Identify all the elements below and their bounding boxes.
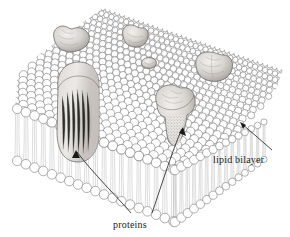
proteins-label: proteins bbox=[113, 219, 147, 230]
protein-top-left bbox=[54, 26, 90, 52]
protein-right bbox=[196, 52, 233, 82]
protein-small-mid bbox=[142, 58, 157, 69]
figure-canvas: lipid bilayer proteins bbox=[0, 0, 290, 237]
membrane-diagram bbox=[0, 0, 290, 237]
protein-top-mid bbox=[123, 25, 149, 47]
protein-large-left bbox=[57, 62, 99, 162]
lipid-bilayer-label: lipid bilayer bbox=[213, 154, 264, 165]
